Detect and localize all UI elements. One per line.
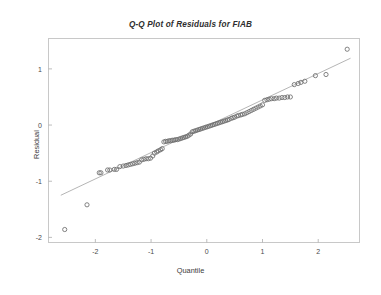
plot-frame [48,38,360,243]
x-tick-label: 1 [261,248,265,255]
y-tick-label: 0 [18,122,42,129]
y-tick-label: -2 [18,234,42,241]
x-tick-label: 0 [205,248,209,255]
y-tick-label: 1 [18,65,42,72]
qq-plot-figure: Q-Q Plot of Residuals for FIAB Residual … [0,0,381,295]
y-tick-label: -1 [18,178,42,185]
x-tick-label: -1 [148,248,154,255]
page-title: Q-Q Plot of Residuals for FIAB [0,20,381,29]
y-axis-title: Residual [32,105,41,185]
x-tick-label: -2 [92,248,98,255]
x-axis-title: Quantile [0,266,381,275]
x-tick-label: 2 [316,248,320,255]
